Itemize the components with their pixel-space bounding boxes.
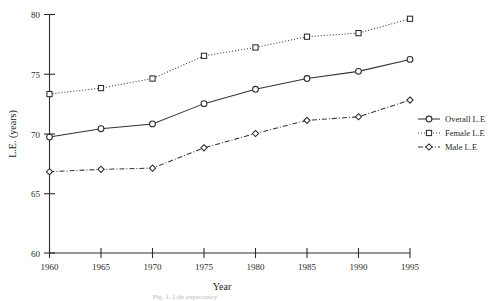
chart-axes <box>50 14 411 253</box>
data-point <box>98 166 104 172</box>
legend-item-male[interactable]: Male L.E <box>418 142 477 152</box>
y-axis-title: L.E. (years) <box>7 110 19 157</box>
x-tick-label-1970: 1970 <box>144 262 163 272</box>
data-point <box>356 68 362 74</box>
data-point <box>149 165 155 171</box>
data-point <box>201 145 207 151</box>
legend-label: Overall L.E <box>445 114 485 124</box>
data-point <box>356 31 361 36</box>
legend-item-female[interactable]: Female L.E <box>418 128 485 138</box>
data-series-layer <box>46 16 413 175</box>
data-point <box>150 76 155 81</box>
x-tick-label-1960: 1960 <box>41 262 60 272</box>
data-point <box>304 117 310 123</box>
legend-marker <box>426 144 432 150</box>
legend-marker <box>426 116 432 122</box>
data-point <box>355 114 361 120</box>
data-point <box>407 57 413 63</box>
x-axis-tick-labels: 1960 1965 1970 1975 1980 1985 1990 1995 <box>41 262 420 272</box>
x-tick-label-1985: 1985 <box>298 262 317 272</box>
x-tick-label-1965: 1965 <box>92 262 111 272</box>
data-point <box>201 101 207 107</box>
series-male-l-e <box>46 97 413 175</box>
data-point <box>253 86 259 92</box>
series-female-l-e <box>47 16 413 96</box>
y-axis-tick-labels: 80 75 70 65 60 <box>31 10 41 259</box>
legend-item-overall[interactable]: Overall L.E <box>418 114 485 124</box>
data-point <box>201 53 206 58</box>
legend-label: Female L.E <box>445 128 485 138</box>
series-overall-l-e <box>47 57 413 140</box>
data-point <box>304 34 309 39</box>
data-point <box>253 45 258 50</box>
chart-legend: Overall L.EFemale L.EMale L.E <box>418 114 485 152</box>
data-point <box>150 121 156 127</box>
data-point <box>98 85 103 90</box>
x-tick-label-1990: 1990 <box>350 262 369 272</box>
x-axis-title: Year <box>213 281 232 292</box>
data-point <box>407 97 413 103</box>
y-tick-label-60: 60 <box>31 249 41 259</box>
data-point <box>407 16 412 21</box>
y-tick-label-65: 65 <box>31 189 41 199</box>
y-tick-label-75: 75 <box>31 70 41 80</box>
data-point <box>98 126 104 132</box>
figure-caption: Fig. 1. Life expectancy <box>153 293 218 301</box>
x-tick-label-1995: 1995 <box>401 262 420 272</box>
y-tick-label-80: 80 <box>31 10 41 20</box>
chart-container: 80 75 70 65 60 1960 1965 1970 1975 1980 … <box>0 0 496 301</box>
legend-marker <box>426 130 431 135</box>
data-point <box>47 91 52 96</box>
x-tick-label-1980: 1980 <box>247 262 266 272</box>
series-line <box>50 100 411 172</box>
data-point <box>46 169 52 175</box>
line-chart: 80 75 70 65 60 1960 1965 1970 1975 1980 … <box>0 0 496 301</box>
data-point <box>304 76 310 82</box>
legend-label: Male L.E <box>445 142 477 152</box>
y-tick-label-70: 70 <box>31 130 41 140</box>
x-tick-label-1975: 1975 <box>195 262 214 272</box>
data-point <box>252 130 258 136</box>
data-point <box>47 134 53 140</box>
